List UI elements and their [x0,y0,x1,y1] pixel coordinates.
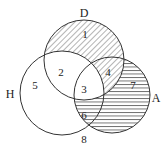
region-label-1: 1 [82,28,88,40]
set-label-h: H [6,87,15,101]
set-label-a: A [152,91,161,105]
region-label-7: 7 [130,79,136,91]
region-label-4: 4 [105,66,111,78]
region-label-8: 8 [81,133,87,145]
region-label-6: 6 [81,109,87,121]
region-label-3: 3 [81,83,87,95]
region-label-2: 2 [58,66,64,78]
set-label-d: D [80,6,89,20]
region-label-5: 5 [32,79,38,91]
venn-diagram: D H A 1 2 3 4 5 6 7 8 [0,0,168,149]
